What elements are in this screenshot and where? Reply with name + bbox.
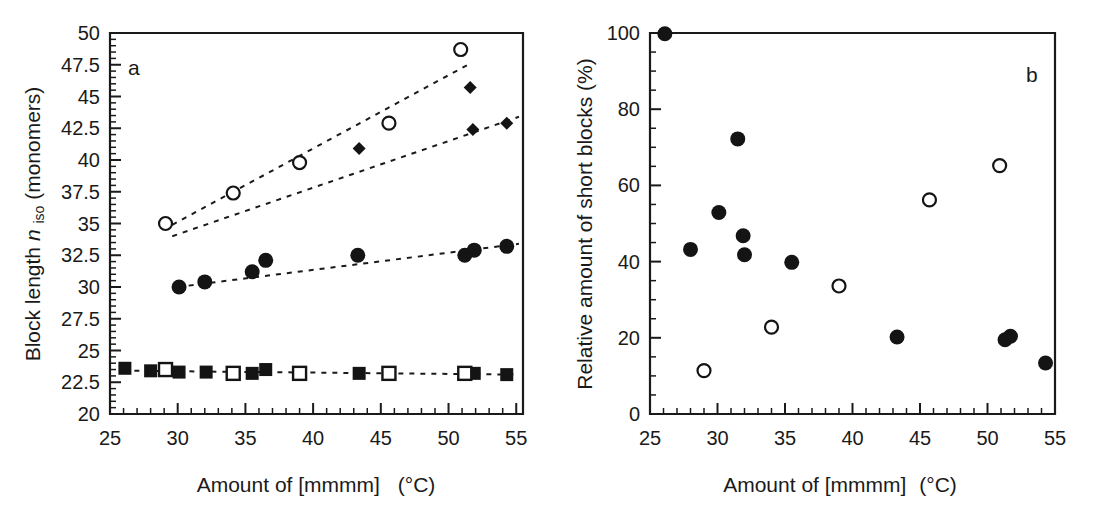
panel-b-y-axis-title: Relative amount of short blocks (%) bbox=[573, 58, 596, 389]
data-point-marker bbox=[197, 274, 212, 289]
y-tick-label: 22.5 bbox=[61, 371, 100, 393]
panel-a-x-axis-title-main: Amount of [mmmm] bbox=[197, 473, 380, 496]
panel-a: 253035404550552022.52527.53032.53537.540… bbox=[21, 22, 527, 496]
data-point-marker bbox=[245, 264, 260, 279]
data-point-marker bbox=[500, 117, 513, 130]
data-point-marker bbox=[382, 367, 395, 380]
panel-b: 25303540455055020406080100 b Amount of [… bbox=[573, 22, 1066, 496]
series-filled-circle bbox=[657, 26, 1053, 370]
data-point-marker bbox=[118, 362, 131, 375]
panel-b-x-axis-title-main: Amount of [mmmm] bbox=[723, 473, 906, 496]
data-point-marker bbox=[1038, 355, 1053, 370]
panel-a-fit-lines bbox=[134, 63, 519, 374]
data-point-marker bbox=[698, 364, 711, 377]
panel-b-frame bbox=[650, 33, 1055, 414]
data-point-marker bbox=[730, 131, 745, 146]
panel-a-y-axis-title-post: (monomers) bbox=[21, 87, 44, 200]
figure-root: 253035404550552022.52527.53032.53537.540… bbox=[0, 0, 1100, 514]
trend-line bbox=[172, 117, 519, 236]
data-point-marker bbox=[293, 367, 306, 380]
data-point-marker bbox=[454, 43, 467, 56]
series-open-circle bbox=[698, 159, 1007, 377]
data-point-marker bbox=[458, 367, 471, 380]
y-tick-label: 20 bbox=[78, 403, 100, 425]
y-tick-label: 42.5 bbox=[61, 117, 100, 139]
data-point-marker bbox=[784, 255, 799, 270]
x-tick-label: 35 bbox=[234, 427, 256, 449]
x-tick-label: 25 bbox=[639, 427, 661, 449]
data-point-marker bbox=[173, 366, 186, 379]
data-point-marker bbox=[923, 193, 936, 206]
y-tick-label: 47.5 bbox=[61, 54, 100, 76]
panel-a-y-axis-title-symbol: n bbox=[21, 229, 44, 241]
data-point-marker bbox=[159, 363, 172, 376]
data-point-marker bbox=[683, 242, 698, 257]
data-point-marker bbox=[467, 243, 482, 258]
panel-a-tick-labels: 253035404550552022.52527.53032.53537.540… bbox=[61, 22, 527, 449]
data-point-marker bbox=[657, 26, 672, 41]
y-tick-label: 20 bbox=[618, 327, 640, 349]
y-tick-label: 40 bbox=[618, 251, 640, 273]
panel-a-x-axis-title: Amount of [mmmm] (°C) bbox=[197, 473, 436, 496]
panel-b-tick-labels: 25303540455055020406080100 bbox=[607, 22, 1067, 449]
trend-line bbox=[172, 63, 470, 224]
x-tick-label: 50 bbox=[976, 427, 998, 449]
data-point-marker bbox=[159, 217, 172, 230]
y-tick-label: 50 bbox=[78, 22, 100, 44]
x-tick-label: 50 bbox=[437, 427, 459, 449]
data-point-marker bbox=[200, 366, 213, 379]
x-tick-label: 45 bbox=[909, 427, 931, 449]
panel-a-letter: a bbox=[128, 56, 140, 79]
panel-a-y-axis-title-pre: Block length bbox=[21, 241, 44, 361]
panel-b-letter: b bbox=[1026, 63, 1038, 86]
data-point-marker bbox=[737, 247, 752, 262]
figure-canvas: 253035404550552022.52527.53032.53537.540… bbox=[0, 0, 1100, 514]
data-point-marker bbox=[736, 228, 751, 243]
panel-a-data-points bbox=[118, 43, 514, 381]
data-point-marker bbox=[144, 364, 157, 377]
data-point-marker bbox=[499, 239, 514, 254]
series-open-circle bbox=[159, 43, 467, 230]
x-tick-label: 40 bbox=[302, 427, 324, 449]
data-point-marker bbox=[833, 279, 846, 292]
y-tick-label: 32.5 bbox=[61, 244, 100, 266]
x-tick-label: 40 bbox=[841, 427, 863, 449]
y-tick-label: 80 bbox=[618, 98, 640, 120]
data-point-marker bbox=[353, 142, 366, 155]
x-tick-label: 45 bbox=[370, 427, 392, 449]
data-point-marker bbox=[464, 81, 477, 94]
y-tick-label: 30 bbox=[78, 276, 100, 298]
y-tick-label: 35 bbox=[78, 213, 100, 235]
panel-b-data-points bbox=[657, 26, 1053, 377]
y-tick-label: 45 bbox=[78, 86, 100, 108]
data-point-marker bbox=[890, 330, 905, 345]
series-filled-diamond bbox=[353, 81, 514, 155]
data-point-marker bbox=[350, 248, 365, 263]
data-point-marker bbox=[711, 205, 726, 220]
panel-b-ticks bbox=[650, 33, 1055, 414]
x-tick-label: 30 bbox=[167, 427, 189, 449]
series-filled-square bbox=[118, 362, 513, 381]
data-point-marker bbox=[353, 367, 366, 380]
data-point-marker bbox=[246, 367, 259, 380]
y-tick-label: 60 bbox=[618, 174, 640, 196]
x-tick-label: 35 bbox=[774, 427, 796, 449]
x-tick-label: 25 bbox=[99, 427, 121, 449]
y-tick-label: 40 bbox=[78, 149, 100, 171]
data-point-marker bbox=[172, 280, 187, 295]
y-tick-label: 25 bbox=[78, 340, 100, 362]
data-point-marker bbox=[259, 363, 272, 376]
panel-a-y-axis-title-subscript: iso bbox=[31, 205, 47, 223]
panel-a-y-axis-title: Block length n iso (monomers) bbox=[21, 87, 47, 362]
data-point-marker bbox=[227, 187, 240, 200]
data-point-marker bbox=[993, 159, 1006, 172]
data-point-marker bbox=[500, 368, 513, 381]
data-point-marker bbox=[227, 367, 240, 380]
panel-b-x-axis-title: Amount of [mmmm] (°C) bbox=[723, 473, 957, 496]
x-tick-label: 55 bbox=[505, 427, 527, 449]
data-point-marker bbox=[1003, 329, 1018, 344]
data-point-marker bbox=[293, 156, 306, 169]
x-tick-label: 30 bbox=[706, 427, 728, 449]
panel-a-x-axis-title-unit: (°C) bbox=[398, 473, 436, 496]
y-tick-label: 27.5 bbox=[61, 308, 100, 330]
